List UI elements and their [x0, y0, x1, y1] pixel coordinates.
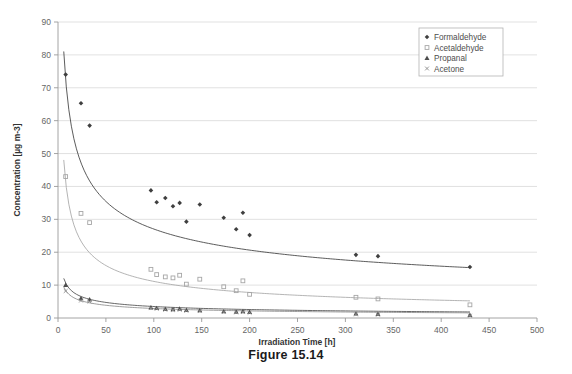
- y-tick-label: 80: [42, 50, 52, 60]
- y-tick-label: 10: [42, 280, 52, 290]
- figure-caption: Figure 15.14: [0, 348, 572, 362]
- legend-label: Acetaldehyde: [434, 44, 484, 53]
- x-tick-label: 50: [101, 325, 111, 335]
- x-axis-ticks: 050100150200250300350400450500: [56, 318, 545, 335]
- x-tick-label: 200: [243, 325, 257, 335]
- chart-legend: FormaldehydeAcetaldehydePropanalAcetone: [419, 28, 503, 76]
- legend-label: Propanal: [434, 54, 467, 63]
- y-tick-label: 50: [42, 149, 52, 159]
- y-tick-label: 40: [42, 181, 52, 191]
- x-tick-label: 450: [482, 325, 496, 335]
- x-tick-label: 100: [147, 325, 161, 335]
- x-tick-label: 400: [434, 325, 448, 335]
- y-axis-title: Concentration [µg m-3]: [12, 123, 22, 216]
- x-tick-label: 350: [386, 325, 400, 335]
- x-tick-label: 250: [290, 325, 304, 335]
- x-tick-label: 500: [530, 325, 544, 335]
- y-tick-label: 0: [46, 313, 51, 323]
- y-tick-label: 20: [42, 247, 52, 257]
- chart-plot: 050100150200250300350400450500 010203040…: [0, 0, 572, 348]
- legend-label: Acetone: [434, 65, 464, 74]
- legend-item-acetaldehyde[interactable]: Acetaldehyde: [425, 44, 484, 53]
- legend-item-formaldehyde[interactable]: Formaldehyde: [425, 33, 487, 42]
- x-tick-label: 0: [56, 325, 61, 335]
- x-tick-label: 300: [338, 325, 352, 335]
- y-tick-label: 30: [42, 214, 52, 224]
- y-tick-label: 90: [42, 17, 52, 27]
- x-tick-label: 150: [195, 325, 209, 335]
- x-axis-title: Irradiation Time [h]: [259, 337, 336, 347]
- y-axis-ticks: 0102030405060708090: [42, 17, 58, 323]
- legend-label: Formaldehyde: [434, 33, 487, 42]
- y-tick-label: 60: [42, 116, 52, 126]
- figure-container: 050100150200250300350400450500 010203040…: [0, 0, 572, 374]
- y-tick-label: 70: [42, 83, 52, 93]
